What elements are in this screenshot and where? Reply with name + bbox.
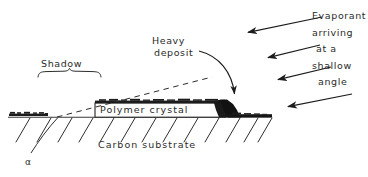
evaporant-caption-line2: arriving xyxy=(312,25,366,42)
thin-deposit-left xyxy=(9,112,48,116)
evaporant-caption-line5: angle xyxy=(312,74,366,91)
alpha-angle-label: α xyxy=(25,157,31,169)
carbon-substrate-label: Carbon substrate xyxy=(98,139,196,151)
evaporant-arrow-4 xyxy=(288,94,352,107)
polymer-crystal-label: Polymer crystal xyxy=(100,104,188,116)
evaporant-caption-line3: at a xyxy=(312,41,366,58)
heavy-deposit-curved-arrow xyxy=(199,51,235,94)
heavy-deposit-label: Heavy deposit xyxy=(152,35,193,58)
heavy-deposit-label-line2: deposit xyxy=(152,47,193,59)
heavy-deposit-blob xyxy=(214,100,272,118)
evaporant-caption-line1: Evaporant xyxy=(312,8,366,25)
evaporant-caption-line4: shallow xyxy=(312,58,366,75)
heavy-deposit-label-line1: Heavy xyxy=(152,35,185,46)
alpha-leader-line xyxy=(31,118,58,153)
evaporant-caption: Evaporant arriving at a shallow angle xyxy=(312,8,366,91)
shadow-brace xyxy=(38,68,101,77)
evaporant-arrow-1 xyxy=(248,17,322,32)
shadow-label: Shadow xyxy=(41,58,82,70)
